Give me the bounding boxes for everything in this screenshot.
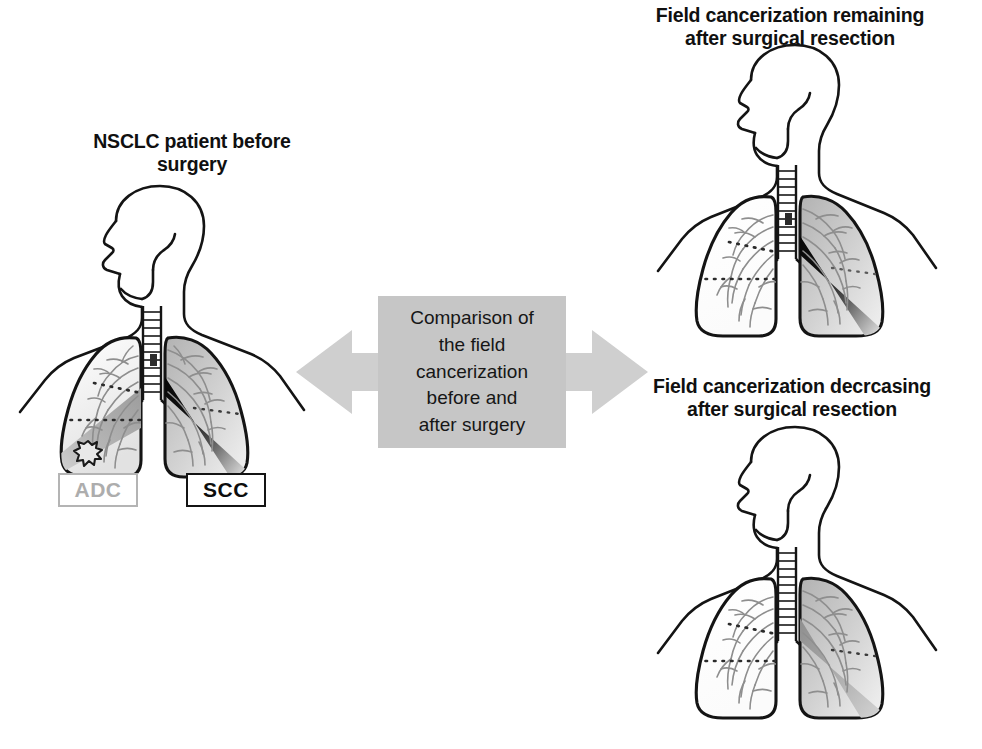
anatomy-figure-before <box>8 178 308 478</box>
comparison-block: Comparison of the field cancerization be… <box>296 296 648 448</box>
comparison-caption-text: Comparison of the field cancerization be… <box>410 305 534 440</box>
figure-canvas: NSCLC patient before surgery <box>0 0 982 749</box>
caption-before-surgery: NSCLC patient before surgery <box>42 130 342 176</box>
anatomy-figure-decreasing <box>648 418 938 728</box>
lung-field-decreasing <box>798 578 889 718</box>
lung-field-remaining <box>798 196 889 336</box>
anatomy-figure-remaining <box>648 40 938 340</box>
comparison-caption-box: Comparison of the field cancerization be… <box>378 296 566 448</box>
label-scc: SCC <box>186 473 266 507</box>
lung-scc <box>163 337 254 477</box>
caption-field-decreasing: Field cancerization decrcasing after sur… <box>612 375 972 421</box>
label-adc: ADC <box>58 473 138 507</box>
label-adc-text: ADC <box>75 478 122 502</box>
lung-adc <box>32 338 141 477</box>
label-scc-text: SCC <box>203 478 249 502</box>
